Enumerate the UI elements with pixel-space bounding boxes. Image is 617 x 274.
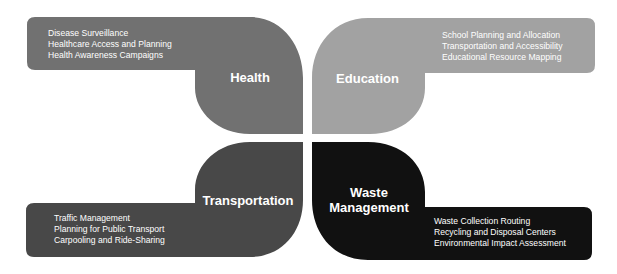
health-item: Healthcare Access and Planning bbox=[48, 39, 172, 50]
education-items: School Planning and Allocation Transport… bbox=[442, 30, 563, 63]
health-item: Health Awareness Campaigns bbox=[48, 50, 172, 61]
waste-management-item: Waste Collection Routing bbox=[434, 216, 566, 227]
education-item: School Planning and Allocation bbox=[442, 30, 563, 41]
waste-management-item: Recycling and Disposal Centers bbox=[434, 227, 566, 238]
health-title: Health bbox=[220, 70, 280, 85]
education-item: Transportation and Accessibility bbox=[442, 41, 563, 52]
waste-management-title-line1: Waste bbox=[325, 185, 413, 200]
waste-management-title-line2: Management bbox=[325, 200, 413, 215]
health-item: Disease Surveillance bbox=[48, 28, 172, 39]
transportation-title: Transportation bbox=[198, 193, 298, 208]
waste-management-items: Waste Collection Routing Recycling and D… bbox=[434, 216, 566, 249]
transportation-item: Planning for Public Transport bbox=[54, 224, 165, 235]
waste-management-item: Environmental Impact Assessment bbox=[434, 238, 566, 249]
transportation-item: Traffic Management bbox=[54, 213, 165, 224]
health-items: Disease Surveillance Healthcare Access a… bbox=[48, 28, 172, 61]
waste-management-title: Waste Management bbox=[325, 185, 413, 215]
education-title: Education bbox=[330, 71, 405, 86]
transportation-items: Traffic Management Planning for Public T… bbox=[54, 213, 165, 246]
transportation-item: Carpooling and Ride-Sharing bbox=[54, 235, 165, 246]
education-item: Educational Resource Mapping bbox=[442, 52, 563, 63]
